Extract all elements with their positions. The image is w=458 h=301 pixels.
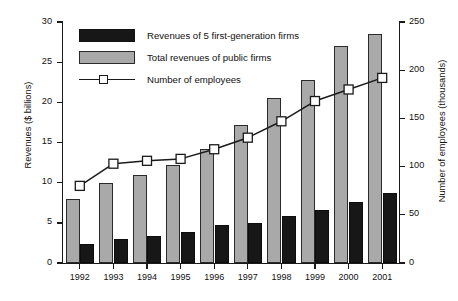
bar-total-revenues — [267, 98, 281, 263]
x-axis-tick — [180, 264, 181, 269]
bar-total-revenues — [200, 149, 214, 263]
bar-first-generation-revenues — [215, 225, 229, 263]
y-axis-right-tick-label: 150 — [409, 112, 424, 122]
y-axis-left-tick-label: 20 — [42, 96, 52, 106]
bar-first-generation-revenues — [315, 210, 329, 263]
x-axis-tick — [146, 264, 147, 269]
bar-first-generation-revenues — [282, 216, 296, 263]
y-axis-left-tick-label: 5 — [47, 216, 52, 226]
bar-first-generation-revenues — [383, 193, 397, 263]
bar-first-generation-revenues — [80, 244, 94, 263]
y-axis-right-tick-label: 200 — [409, 64, 424, 74]
x-axis-tick — [314, 264, 315, 269]
legend-swatch-gray-icon — [79, 51, 135, 64]
y-axis-left-tick — [57, 262, 62, 263]
y-axis-right-tick — [400, 21, 405, 22]
x-axis-tick — [113, 264, 114, 269]
bar-total-revenues — [368, 34, 382, 263]
y-axis-left-title: Revenues ($ billions) — [23, 35, 33, 215]
y-axis-right-tick — [400, 70, 405, 71]
y-axis-right-tick — [400, 166, 405, 167]
y-axis-left-tick — [57, 102, 62, 103]
y-axis-left-tick — [57, 21, 62, 22]
y-axis-right-tick — [400, 118, 405, 119]
bar-first-generation-revenues — [349, 202, 363, 263]
x-axis-tick — [214, 264, 215, 269]
y-axis-left-tick-label: 10 — [42, 176, 52, 186]
y-axis-left-tick-label: 25 — [42, 56, 52, 66]
y-axis-right-tick — [400, 262, 405, 263]
x-axis-tick — [382, 264, 383, 269]
x-axis-tick-label: 2001 — [362, 272, 402, 282]
chart-container: 0510152025300501001502002501992199319941… — [0, 0, 458, 301]
legend-label-first-generation-firms: Revenues of 5 first-generation firms — [147, 30, 299, 41]
y-axis-left-line — [62, 21, 63, 264]
chart-legend: Revenues of 5 first-generation firms Tot… — [79, 24, 299, 90]
y-axis-right-tick-label: 50 — [409, 208, 419, 218]
y-axis-left-tick — [57, 222, 62, 223]
x-axis-tick — [281, 264, 282, 269]
x-axis-tick — [79, 264, 80, 269]
bar-total-revenues — [334, 46, 348, 263]
x-axis-tick — [348, 264, 349, 269]
bar-total-revenues — [66, 199, 80, 263]
legend-item-first-generation-firms: Revenues of 5 first-generation firms — [79, 24, 299, 46]
bar-first-generation-revenues — [181, 232, 195, 263]
y-axis-right-tick-label: 250 — [409, 16, 424, 26]
bar-total-revenues — [301, 80, 315, 263]
y-axis-right-line — [399, 21, 400, 264]
legend-swatch-line-marker-icon — [79, 73, 135, 86]
y-axis-right-title: Number of employees (thousands) — [437, 41, 447, 221]
y-axis-right-tick-label: 0 — [409, 257, 414, 267]
bar-total-revenues — [166, 165, 180, 263]
y-axis-left-tick — [57, 142, 62, 143]
bar-first-generation-revenues — [114, 239, 128, 263]
y-axis-left-tick — [57, 182, 62, 183]
legend-item-number-of-employees: Number of employees — [79, 68, 299, 90]
y-axis-left-tick-label: 0 — [47, 257, 52, 267]
bar-total-revenues — [234, 125, 248, 263]
y-axis-left-tick-label: 15 — [42, 136, 52, 146]
y-axis-left-tick — [57, 62, 62, 63]
y-axis-right-tick-label: 100 — [409, 160, 424, 170]
legend-label-number-of-employees: Number of employees — [147, 74, 241, 85]
bar-total-revenues — [133, 175, 147, 263]
bar-total-revenues — [99, 183, 113, 263]
x-axis-tick — [247, 264, 248, 269]
bar-first-generation-revenues — [248, 223, 262, 263]
bar-first-generation-revenues — [147, 236, 161, 263]
y-axis-left-tick-label: 30 — [42, 16, 52, 26]
y-axis-right-tick — [400, 214, 405, 215]
legend-label-total-revenues: Total revenues of public firms — [147, 52, 271, 63]
legend-swatch-black-icon — [79, 29, 135, 42]
legend-item-total-revenues: Total revenues of public firms — [79, 46, 299, 68]
